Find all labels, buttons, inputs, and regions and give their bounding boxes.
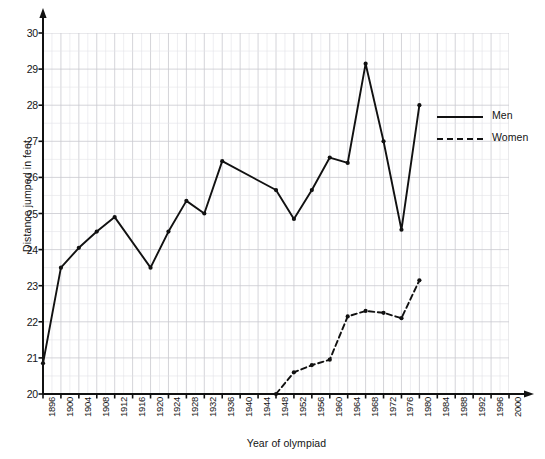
x-axis-tick-1944: 1944 — [262, 397, 271, 417]
x-axis-tick-1972: 1972 — [388, 397, 397, 417]
x-axis-tick-1932: 1932 — [208, 397, 217, 417]
legend-swatch-men-solid-line — [437, 116, 483, 118]
x-axis-tick-1940: 1940 — [244, 397, 253, 417]
x-axis-tick-1948: 1948 — [280, 397, 289, 417]
x-axis-tick-1964: 1964 — [352, 397, 361, 417]
y-axis-tick-28: 28 — [12, 100, 38, 110]
legend-item-women: Women — [437, 128, 541, 150]
x-axis-tick-2000: 2000 — [513, 397, 522, 417]
x-axis-tick-1920: 1920 — [155, 397, 164, 417]
x-axis-tick-1952: 1952 — [298, 397, 307, 417]
x-axis-tick-1956: 1956 — [316, 397, 325, 417]
y-axis-tick-23: 23 — [12, 281, 38, 291]
legend-swatch-women-dashed-line — [437, 138, 483, 140]
x-axis-tick-1996: 1996 — [495, 397, 504, 417]
x-axis-tick-1916: 1916 — [137, 397, 146, 417]
x-axis-tick-1936: 1936 — [226, 397, 235, 417]
x-axis-tick-1976: 1976 — [405, 397, 414, 417]
x-axis-tick-1928: 1928 — [190, 397, 199, 417]
x-axis-tick-1904: 1904 — [83, 397, 92, 417]
x-axis-tick-1980: 1980 — [423, 397, 432, 417]
plot-area — [43, 33, 509, 394]
x-axis-tick-1924: 1924 — [172, 397, 181, 417]
x-axis-title: Year of olympiad — [0, 437, 545, 449]
y-axis-tick-22: 22 — [12, 317, 38, 327]
x-axis-tick-1984: 1984 — [441, 397, 450, 417]
x-axis-tick-1908: 1908 — [101, 397, 110, 417]
x-axis-tick-1968: 1968 — [370, 397, 379, 417]
y-axis-title: Distance jumped in feet — [21, 121, 33, 271]
legend: Men Women — [437, 106, 541, 150]
x-axis-tick-1988: 1988 — [459, 397, 468, 417]
x-axis-tick-1896: 1896 — [47, 397, 56, 417]
data-series-layer — [43, 33, 509, 394]
line-chart: 2021222324252627282930 18961900190419081… — [0, 0, 545, 459]
legend-label-women: Women — [492, 131, 529, 143]
x-axis-tick-1992: 1992 — [477, 397, 486, 417]
legend-item-men: Men — [437, 106, 541, 128]
y-axis-tick-30: 30 — [12, 28, 38, 38]
y-axis-tick-21: 21 — [12, 353, 38, 363]
x-axis-tick-1900: 1900 — [65, 397, 74, 417]
x-axis-tick-1960: 1960 — [334, 397, 343, 417]
x-axis-tick-1912: 1912 — [119, 397, 128, 417]
legend-label-men: Men — [492, 109, 513, 121]
y-axis-tick-29: 29 — [12, 64, 38, 74]
y-axis-tick-20: 20 — [12, 389, 38, 399]
